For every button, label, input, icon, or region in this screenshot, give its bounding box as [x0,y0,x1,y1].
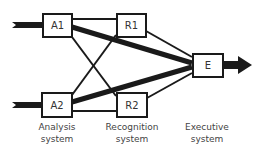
caption-executive-line2: system [172,133,242,145]
input-arrow-a2 [12,102,42,108]
caption-analysis: Analysis system [22,121,92,145]
node-e-label: E [205,60,211,71]
node-a1: A1 [42,13,73,38]
caption-executive-line1: Executive [172,121,242,133]
node-r2: R2 [116,92,148,118]
caption-recognition: Recognition system [97,121,167,145]
node-r1-label: R1 [125,20,138,31]
node-a2-label: A2 [50,100,63,111]
caption-analysis-line2: system [22,133,92,145]
caption-recognition-line2: system [97,133,167,145]
node-r1: R1 [116,13,147,38]
output-arrow [223,56,252,74]
caption-executive: Executive system [172,121,242,145]
caption-analysis-line1: Analysis [22,121,92,133]
caption-recognition-line1: Recognition [97,121,167,133]
node-r2-label: R2 [125,100,138,111]
input-arrow-a1 [12,22,42,28]
node-a2: A2 [41,92,73,118]
node-a1-label: A1 [51,20,64,31]
node-e: E [192,53,224,78]
